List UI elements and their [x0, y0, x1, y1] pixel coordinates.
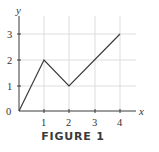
x-tick-label-4: 4 [117, 117, 123, 128]
x-tick-label-1: 1 [41, 117, 46, 128]
grid [19, 16, 136, 111]
axes [17, 16, 136, 113]
y-axis-label: y [15, 4, 21, 16]
y-tick-label-2: 2 [7, 55, 12, 66]
y-tick-label-1: 1 [7, 81, 12, 92]
y-tick-label-0: 0 [6, 106, 11, 117]
x-axis-label: x [138, 105, 144, 117]
data-line [19, 34, 120, 111]
x-tick-label-3: 3 [92, 117, 97, 128]
figure-caption: FIGURE 1 [0, 130, 146, 143]
y-tick-label-3: 3 [7, 29, 12, 40]
line-chart: y x 1 2 3 4 0 1 2 3 FIGURE 1 [0, 0, 159, 152]
x-tick-label-2: 2 [66, 117, 71, 128]
